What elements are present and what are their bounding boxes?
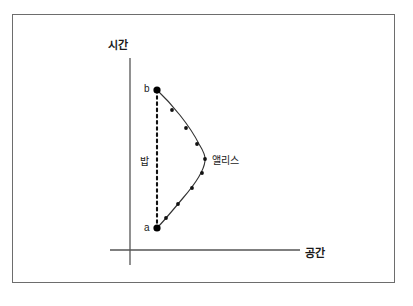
alice-worldline-label: 앨리스 (212, 152, 239, 167)
alice-worldline-markers (164, 108, 207, 220)
alice-worldline (157, 90, 207, 228)
event-point-b (153, 86, 160, 93)
event-label-a: a (144, 222, 150, 233)
event-label-b: b (144, 83, 150, 94)
bob-worldline-label: 밥 (140, 153, 149, 168)
time-axis-label: 시간 (108, 36, 128, 52)
figure-root: 시간 공간 b a 밥 앨리스 (0, 0, 413, 306)
event-point-a (153, 224, 160, 231)
space-axis-label: 공간 (305, 244, 325, 260)
spacetime-diagram-canvas (0, 0, 413, 306)
